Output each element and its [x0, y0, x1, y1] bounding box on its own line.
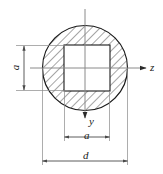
dimension-label-a-vertical: a [10, 65, 21, 71]
cross-section-figure: a a d z y [0, 0, 163, 174]
axis-label-y: y [89, 116, 94, 127]
axis-label-z: z [150, 62, 154, 73]
cross-section-drawing [0, 0, 163, 174]
dimension-label-a-horizontal: a [84, 130, 90, 141]
dimension-label-d: d [83, 150, 89, 161]
